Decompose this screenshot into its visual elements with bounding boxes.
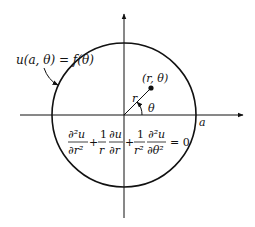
- boundary-leader-arrow: [44, 68, 58, 85]
- laplace-equation: ∂²u ∂r² + 1 r ∂u ∂r + 1 r² ∂²u ∂θ² = 0: [68, 128, 190, 157]
- angle-arc: [137, 102, 142, 115]
- term2-numerator: ∂u: [109, 128, 122, 141]
- term1-numerator: ∂²u: [68, 128, 85, 141]
- term3-coef-denominator: r²: [134, 144, 144, 157]
- radius-label: r: [132, 92, 138, 105]
- boundary-condition-label: u(a, θ) = f(θ): [16, 53, 94, 67]
- term2-coef-denominator: r: [99, 144, 105, 157]
- point-marker: [148, 85, 153, 90]
- plus-sign-1: +: [89, 136, 98, 149]
- point-label: (r, θ): [142, 72, 168, 85]
- term2-denominator: ∂r: [109, 144, 121, 157]
- plus-sign-2: +: [125, 136, 134, 149]
- radius-line: [124, 88, 151, 115]
- term3-coef-numerator: 1: [137, 128, 144, 141]
- angle-label: θ: [148, 102, 155, 115]
- term3-denominator: ∂θ²: [147, 144, 164, 157]
- axis-label-a: a: [199, 116, 206, 129]
- diagram-canvas: u(a, θ) = f(θ) (r, θ) r θ a ∂²u ∂r² + 1 …: [0, 0, 255, 227]
- term2-coef-numerator: 1: [100, 128, 107, 141]
- term3-numerator: ∂²u: [148, 128, 165, 141]
- equals-zero: = 0: [170, 136, 190, 149]
- term1-denominator: ∂r²: [68, 144, 83, 157]
